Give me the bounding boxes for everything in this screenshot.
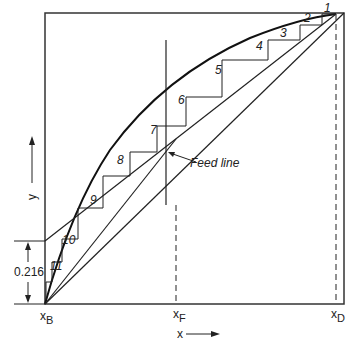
stage-label: 1 xyxy=(324,1,331,15)
mccabe-thiele-diagram: 1 2 3 4 5 6 7 8 9 10 11 Feed line 0.216 … xyxy=(0,0,356,347)
arrow-head-icon xyxy=(168,152,175,157)
arrow-right-icon xyxy=(211,331,220,337)
arrow-down-icon xyxy=(25,295,31,303)
stage-label: 3 xyxy=(280,26,287,40)
x-axis-label: x xyxy=(177,327,183,341)
stage-label: 11 xyxy=(50,259,62,273)
stage-label: 2 xyxy=(303,11,311,25)
stage-label: 9 xyxy=(90,193,97,207)
stage-label: 10 xyxy=(62,233,76,247)
xB-label: xB xyxy=(40,309,53,326)
arrow-up-icon xyxy=(25,242,31,250)
xD-label: xD xyxy=(331,307,345,324)
rectifying-operating-line xyxy=(45,14,336,241)
arrow-up-icon xyxy=(29,136,35,145)
xF-label: xF xyxy=(173,307,186,324)
feed-line-label: Feed line xyxy=(190,156,240,170)
intercept-label: 0.216 xyxy=(14,265,44,279)
stage-label: 8 xyxy=(117,153,124,167)
y-axis-label: y xyxy=(25,194,39,200)
stage-label: 6 xyxy=(178,93,185,107)
stage-label: 5 xyxy=(215,63,222,77)
stage-label: 4 xyxy=(256,39,263,53)
stripping-operating-line xyxy=(45,139,176,304)
